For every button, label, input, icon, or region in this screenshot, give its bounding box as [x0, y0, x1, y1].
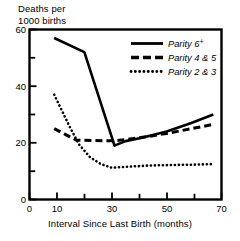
x-tick-label-50: 50	[162, 203, 173, 214]
y-tick-label-20: 20	[15, 137, 26, 148]
series-line-parity-4-5	[54, 124, 213, 140]
series-line-parity-2-3	[54, 95, 213, 168]
legend-label-parity-6plus: Parity 6+	[168, 38, 204, 49]
x-tick-label-10: 10	[52, 203, 63, 214]
y-axis-tick-labels: 60 40 20 0	[15, 24, 26, 205]
x-tick-label-30: 30	[107, 203, 118, 214]
y-tick-label-0: 0	[21, 194, 26, 205]
legend-label-parity-4-5: Parity 4 & 5	[168, 53, 217, 63]
y-tick-label-40: 40	[15, 81, 26, 92]
chart-container: Deaths per 1000 births 60 40 20 0	[0, 0, 240, 241]
y-tick-label-60: 60	[15, 24, 26, 35]
x-tick-label-70: 70	[216, 203, 227, 214]
x-tick-label-0: 0	[27, 203, 32, 214]
chart-plot-area: 60 40 20 0 0 10 30 50 70	[0, 0, 240, 241]
legend: Parity 6+ Parity 4 & 5 Parity 2 & 3	[131, 38, 217, 77]
x-axis-label: Interval Since Last Birth (months)	[0, 218, 240, 229]
legend-label-parity-2-3: Parity 2 & 3	[168, 67, 217, 77]
x-axis-tick-labels: 0 10 30 50 70	[27, 203, 227, 214]
